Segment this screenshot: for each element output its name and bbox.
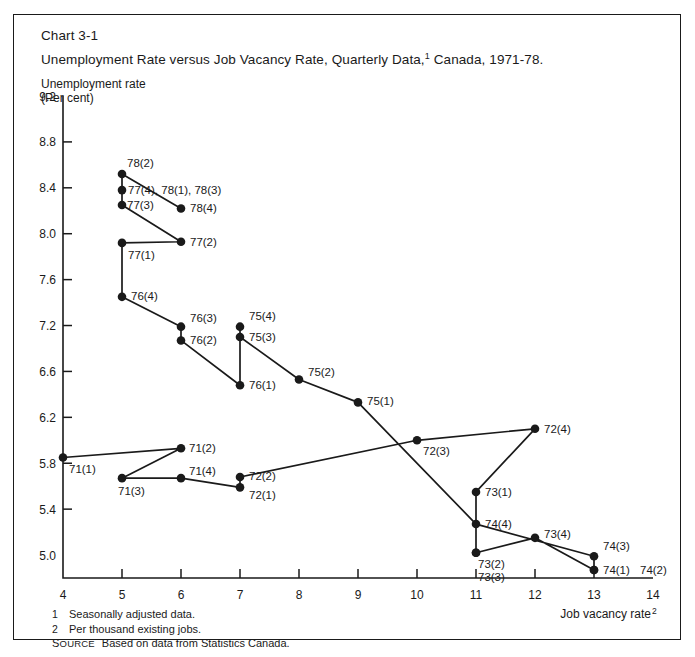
y-axis-tick-label: 8.4 [39,181,56,195]
data-point-marker[interactable] [177,322,186,331]
x-axis-tick-label: 11 [470,588,483,602]
data-point-label: 76(4) [131,290,158,302]
x-axis-tick-label: 14 [646,588,660,602]
data-point-label: 72(1) [249,489,276,501]
data-point-label: 75(1) [367,395,394,407]
x-axis-tick-label: 10 [410,588,424,602]
data-point-label: 74(1) [603,564,630,576]
data-point-marker[interactable] [590,566,599,575]
data-point-label: 71(1) [69,463,96,475]
data-point-label: 77(4), 78(1), 78(3) [128,184,221,196]
data-point-marker[interactable] [118,170,127,179]
data-point-marker[interactable] [236,322,245,331]
data-point-marker[interactable] [177,336,186,345]
data-point-marker[interactable] [590,552,599,561]
footnote-text: Seasonally adjusted data. [69,608,195,620]
x-axis-tick-label: 9 [355,588,362,602]
y-axis-tick-label: 7.6 [39,273,56,287]
source-label: SOURCE [52,636,95,652]
data-point-label: 71(2) [189,442,216,454]
footnote-text: Per thousand existing jobs. [69,623,201,635]
data-point-label: 78(4) [190,202,217,214]
data-point-label: 75(3) [249,331,276,343]
x-axis-tick-label: 8 [296,588,303,602]
x-axis-tick-label: 12 [528,588,542,602]
footnote-marker: 2 [52,622,69,637]
x-axis-caption-footnote-marker: 2 [652,606,657,616]
y-axis-tick-label: 5.0 [39,549,56,563]
data-point-label: 77(1) [128,249,155,261]
data-point-label: 76(3) [190,312,217,324]
data-point-marker[interactable] [177,237,186,246]
y-axis-tick-label: 8.0 [39,227,56,241]
data-point-marker[interactable] [59,453,68,462]
x-axis-tick-label: 6 [178,588,185,602]
y-axis-tick-label: 7.2 [39,319,56,333]
footnote-marker: 1 [52,607,69,622]
source-text: Based on data from Statistics Canada. [102,637,290,649]
data-point-marker[interactable] [472,488,481,497]
data-point-marker[interactable] [472,520,481,529]
chart-frame: Chart 3-1 Unemployment Rate versus Job V… [13,14,681,640]
data-point-label: 73(4) [544,528,571,540]
footnote-item: 2Per thousand existing jobs. [52,622,290,637]
data-point-label: 72(3) [423,445,450,457]
data-point-label: 72(2) [249,470,276,482]
data-point-label: 71(4) [189,465,216,477]
data-point-marker[interactable] [118,186,127,195]
data-point-label: 73(3) [478,571,505,583]
data-point-marker[interactable] [236,473,245,482]
x-axis-tick-label: 7 [237,588,244,602]
y-axis-tick-label: 9.2 [39,90,56,104]
y-axis-tick-label: 8.8 [39,135,56,149]
data-point-label: 75(2) [308,366,335,378]
y-axis-tick-label: 5.8 [39,457,56,471]
data-point-label: 76(1) [249,379,276,391]
x-axis-caption-text: Job vacancy rate [560,607,651,621]
data-point-marker[interactable] [413,436,422,445]
data-point-label: 74(3) [603,540,630,552]
y-axis-tick-label: 6.6 [39,365,56,379]
data-point-label: 75(4) [249,310,276,322]
data-point-label: 73(1) [485,486,512,498]
x-axis-tick-label: 5 [119,588,126,602]
x-axis-tick-label: 13 [587,588,601,602]
scatter-plot: 9.28.88.48.07.67.26.66.25.85.45.04567891… [14,15,682,641]
data-point-label: 74(2) [640,564,667,576]
footnotes: 1Seasonally adjusted data. 2Per thousand… [52,607,290,652]
data-point-marker[interactable] [118,239,127,248]
source-note: SOURCEBased on data from Statistics Cana… [52,636,290,652]
data-point-marker[interactable] [118,293,127,302]
data-point-marker[interactable] [531,425,540,434]
data-point-marker[interactable] [177,204,186,213]
data-point-marker[interactable] [472,548,481,557]
x-axis-tick-label: 4 [60,588,67,602]
data-point-marker[interactable] [118,474,127,483]
data-point-label: 77(3) [127,199,154,211]
data-point-marker[interactable] [531,534,540,543]
data-point-marker[interactable] [236,483,245,492]
data-point-marker[interactable] [177,474,186,483]
data-point-label: 78(2) [127,157,154,169]
data-point-marker[interactable] [236,333,245,342]
footnote-item: 1Seasonally adjusted data. [52,607,290,622]
data-point-marker[interactable] [177,444,186,453]
chart-page: Chart 3-1 Unemployment Rate versus Job V… [0,0,695,657]
data-point-marker[interactable] [236,381,245,390]
y-axis-tick-label: 6.2 [39,411,56,425]
data-point-marker[interactable] [354,398,363,407]
x-axis-caption: Job vacancy rate2 [560,606,657,621]
data-point-label: 71(3) [118,485,145,497]
data-point-label: 74(4) [485,518,512,530]
data-point-marker[interactable] [118,201,127,210]
y-axis-tick-label: 5.4 [39,503,56,517]
data-point-label: 72(4) [544,423,571,435]
data-point-label: 73(2) [478,558,505,570]
data-point-label: 77(2) [190,236,217,248]
data-point-marker[interactable] [295,375,304,384]
data-point-label: 76(2) [190,334,217,346]
